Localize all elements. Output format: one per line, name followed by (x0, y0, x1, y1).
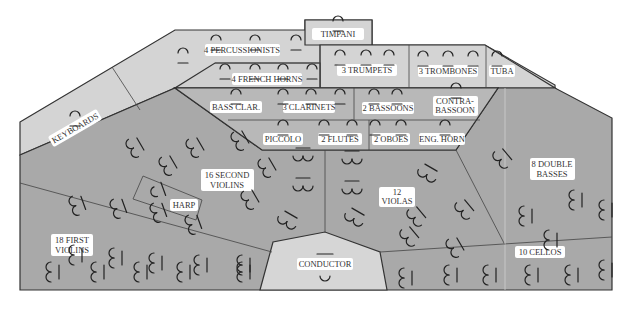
label-french-horns-text: 4 FRENCH HORNS (232, 74, 303, 84)
label-bass-clarinet: BASS CLAR. (210, 101, 262, 113)
label-violas: 12 VIOLAS (379, 187, 415, 207)
orchestra-seating-diagram: TIMPANI 4 PERCUSSIONISTS 4 FRENCH HORNS … (0, 0, 642, 309)
label-harp-text: HARP (173, 200, 196, 210)
label-harp: HARP (170, 199, 198, 211)
label-double-basses-text-2: BASSES (536, 169, 567, 179)
label-cellos-text: 10 CELLOS (519, 247, 562, 257)
label-french-horns: 4 FRENCH HORNS (232, 73, 303, 85)
label-cellos: 10 CELLOS (515, 246, 565, 258)
label-trumpets-text: 3 TRUMPETS (342, 65, 393, 75)
label-first-violins-text-2: VIOLINS (55, 245, 89, 255)
label-first-violins-text-1: 18 FIRST (55, 235, 90, 245)
label-conductor: CONDUCTOR (297, 258, 353, 270)
seating-chart-svg: TIMPANI 4 PERCUSSIONISTS 4 FRENCH HORNS … (0, 0, 642, 309)
label-trumpets: 3 TRUMPETS (337, 64, 397, 76)
label-second-violins: 16 SECOND VIOLINS (201, 169, 254, 191)
label-violas-text-2: VIOLAS (381, 196, 412, 206)
label-timpani: TIMPANI (312, 28, 364, 40)
label-second-violins-text-1: 16 SECOND (205, 170, 250, 180)
label-contrabassoon-text-2: BASSOON (435, 105, 475, 115)
label-tuba: TUBA (489, 65, 515, 77)
label-double-basses-text-1: 8 DOUBLE (532, 159, 573, 169)
label-clarinets: 3 CLARINETS (282, 101, 335, 113)
label-second-violins-text-2: VIOLINS (210, 180, 244, 190)
label-tuba-text: TUBA (490, 66, 514, 76)
label-conductor-text: CONDUCTOR (299, 259, 352, 269)
label-trombones-text: 3 TROMBONES (419, 66, 478, 76)
label-double-basses: 8 DOUBLE BASSES (530, 158, 575, 180)
label-trombones: 3 TROMBONES (418, 65, 478, 77)
label-contrabassoon: CONTRA- BASSOON (433, 96, 478, 116)
